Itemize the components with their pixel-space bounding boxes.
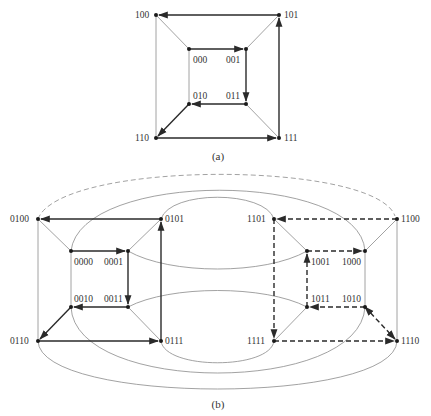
edge-1100-1000 xyxy=(365,219,397,251)
edge-1011-1111 xyxy=(274,307,307,341)
label-000: 000 xyxy=(193,55,208,65)
arc-0000-1000 xyxy=(71,190,365,251)
label-0100: 0100 xyxy=(10,214,29,224)
label-1100: 1100 xyxy=(401,214,420,224)
edge-100-000 xyxy=(156,15,189,49)
node-0001 xyxy=(126,249,130,253)
label-0001: 0001 xyxy=(104,257,123,267)
arc-0110-1110 xyxy=(38,341,397,389)
label-0101: 0101 xyxy=(165,214,184,224)
label-0000: 0000 xyxy=(74,257,93,267)
label-011: 011 xyxy=(226,91,240,101)
arc-0100-1100 xyxy=(38,174,395,219)
node-010 xyxy=(187,102,191,106)
label-1101: 1101 xyxy=(247,214,266,224)
figure-b-4-cube: 0100 0101 0000 0001 0010 0011 0110 0111 … xyxy=(10,174,420,411)
arc-0001-1001 xyxy=(128,251,307,269)
edge-0101-0001 xyxy=(128,219,161,251)
edge-1101-1001 xyxy=(274,219,307,251)
label-110: 110 xyxy=(135,133,149,143)
label-1110: 1110 xyxy=(401,336,420,346)
label-001: 001 xyxy=(226,55,241,65)
node-011 xyxy=(244,102,248,106)
node-0110 xyxy=(36,339,40,343)
node-1111 xyxy=(272,339,276,343)
node-1000 xyxy=(363,249,367,253)
edge-0011-0111 xyxy=(128,307,161,341)
edge-011-111 xyxy=(246,104,279,138)
label-0011: 0011 xyxy=(104,294,123,304)
node-0010 xyxy=(69,305,73,309)
label-0010: 0010 xyxy=(74,294,93,304)
label-010: 010 xyxy=(193,91,208,101)
edge-101-001 xyxy=(246,15,279,49)
node-0111 xyxy=(159,339,163,343)
node-0100 xyxy=(36,217,40,221)
node-0011 xyxy=(126,305,130,309)
path-0010-0110 xyxy=(40,307,71,339)
node-1100 xyxy=(395,217,399,221)
caption-b: (b) xyxy=(212,398,225,411)
hypercube-diagram: 100 101 000 001 010 011 110 111 (a) xyxy=(0,0,431,416)
arc-0011-1011 xyxy=(128,291,307,308)
figure-a-3-cube: 100 101 000 001 010 011 110 111 (a) xyxy=(135,10,299,163)
path-010-110 xyxy=(158,104,189,136)
node-1010 xyxy=(363,305,367,309)
node-1101 xyxy=(272,217,276,221)
label-0111: 0111 xyxy=(165,336,184,346)
label-100: 100 xyxy=(135,10,150,20)
label-101: 101 xyxy=(284,10,299,20)
node-1011 xyxy=(305,305,309,309)
edge-0100-0000 xyxy=(38,219,71,251)
node-111 xyxy=(277,136,281,140)
label-1010: 1010 xyxy=(342,294,361,304)
label-1000: 1000 xyxy=(342,257,361,267)
label-1011: 1011 xyxy=(311,294,330,304)
node-110 xyxy=(154,136,158,140)
node-000 xyxy=(187,47,191,51)
label-1111: 1111 xyxy=(247,336,265,346)
node-100 xyxy=(154,13,158,17)
node-0101 xyxy=(159,217,163,221)
caption-a: (a) xyxy=(212,150,225,163)
node-0000 xyxy=(69,249,73,253)
path-1010-1110 xyxy=(365,307,395,339)
label-111: 111 xyxy=(284,133,298,143)
node-001 xyxy=(244,47,248,51)
label-0110: 0110 xyxy=(10,336,29,346)
node-1001 xyxy=(305,249,309,253)
node-101 xyxy=(277,13,281,17)
node-1110 xyxy=(395,339,399,343)
label-1001: 1001 xyxy=(311,257,330,267)
